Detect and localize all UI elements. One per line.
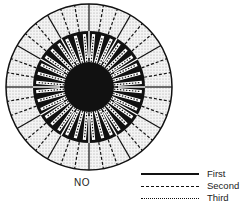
dashed-line-icon [141,186,199,187]
legend-item-third: Third [141,192,250,204]
radial-diagram [0,0,180,175]
figure-caption: NO [74,177,90,188]
legend: First Second Third [141,168,250,204]
solid-line-icon [141,173,199,175]
legend-label: Third [207,192,229,203]
dotted-line-icon [141,198,199,199]
legend-item-first: First [141,168,250,180]
legend-label: First [207,168,225,179]
core [64,62,114,112]
legend-item-second: Second [141,180,250,192]
legend-label: Second [207,180,239,191]
